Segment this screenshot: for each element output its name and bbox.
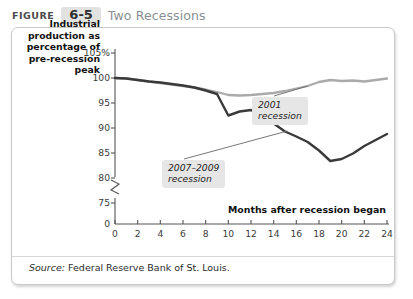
x-tick-label: 12 <box>239 228 263 239</box>
y-tick-label: 90 <box>73 122 110 133</box>
y-tick-label: 85 <box>73 147 110 158</box>
y-tick-label: 75 <box>73 197 110 208</box>
y-tick-label: 105% <box>73 47 110 58</box>
y-tick-label: 100 <box>73 72 110 83</box>
y-tick-label: 95 <box>73 97 110 108</box>
figure-root: FIGURE 6-5 Two Recessions Source: Federa… <box>0 0 413 299</box>
x-tick-label: 16 <box>284 228 308 239</box>
x-tick-label: 14 <box>262 228 286 239</box>
annot-2001: 2001recession <box>252 97 308 125</box>
y-tick-label: 80 <box>73 172 110 183</box>
x-tick-label: 22 <box>352 228 376 239</box>
chart-plot <box>0 0 413 299</box>
annot-2007: 2007–2009recession <box>162 160 225 188</box>
annotation-line: 2001 <box>258 99 302 110</box>
series-line-2007-2009 <box>115 78 387 161</box>
x-tick-label: 10 <box>216 228 240 239</box>
annotation-line: recession <box>168 173 219 184</box>
x-tick-label: 20 <box>330 228 354 239</box>
x-tick-label: 8 <box>194 228 218 239</box>
annotation-line: recession <box>258 110 302 121</box>
x-tick-label: 18 <box>307 228 331 239</box>
x-tick-label: 4 <box>148 228 172 239</box>
x-tick-label: 24 <box>375 228 399 239</box>
annotation-line: 2007–2009 <box>168 162 219 173</box>
x-tick-label: 6 <box>171 228 195 239</box>
x-tick-label: 0 <box>103 228 127 239</box>
x-tick-label: 2 <box>126 228 150 239</box>
y-axis-break-icon <box>111 180 119 194</box>
annotation-leader-line <box>184 131 287 159</box>
series-line-2001 <box>115 78 387 96</box>
